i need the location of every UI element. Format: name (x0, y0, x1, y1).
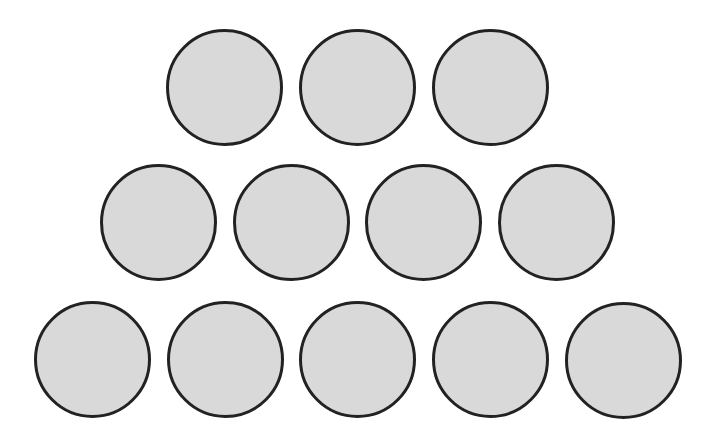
circle-shape (167, 301, 284, 418)
circle-shape (365, 164, 482, 281)
circle-shape (299, 29, 416, 146)
circle-shape (432, 301, 549, 418)
circle-shape (498, 164, 615, 281)
circle-shape (100, 164, 217, 281)
circle-shape (233, 164, 350, 281)
circle-shape (166, 29, 283, 146)
circle-shape (34, 301, 151, 418)
circle-shape (299, 301, 416, 418)
circle-shape (432, 29, 549, 146)
circle-shape (565, 302, 682, 419)
circle-arrangement-diagram (0, 0, 716, 439)
